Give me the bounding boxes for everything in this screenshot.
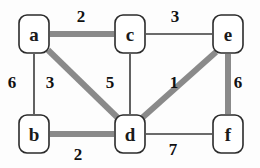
graph-node-f[interactable] (213, 115, 243, 153)
graph-node-a[interactable] (19, 15, 49, 53)
graph-node-c[interactable] (115, 15, 145, 53)
graph-node-b[interactable] (19, 115, 49, 153)
graph-edge-a-d (48, 50, 118, 118)
graph-node-e[interactable] (213, 15, 243, 53)
graph-edge-d-e (142, 52, 216, 118)
graph-figure: acebdf 236351627 (0, 0, 260, 168)
graph-node-d[interactable] (115, 115, 145, 153)
graph-canvas (0, 0, 260, 168)
